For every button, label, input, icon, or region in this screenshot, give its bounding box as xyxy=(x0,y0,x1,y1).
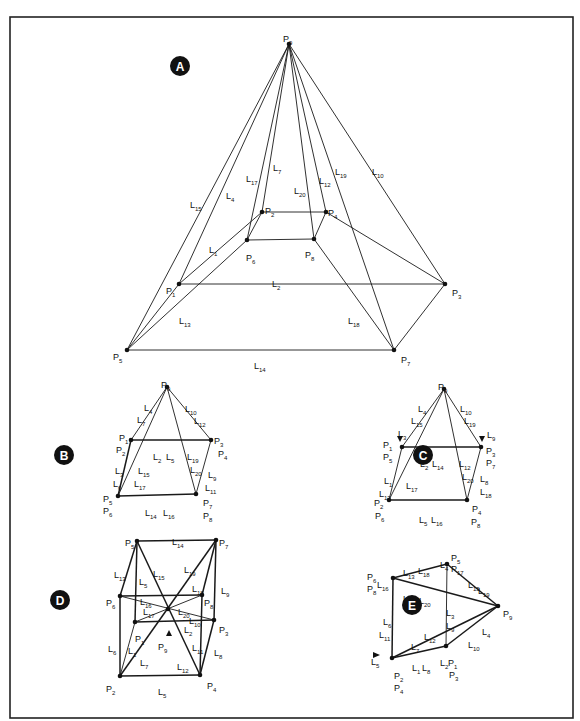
edge-P56-P78 xyxy=(118,494,196,496)
line-label-L9: L9 xyxy=(446,621,455,633)
line-label-L19: L19 xyxy=(187,452,199,464)
point-label-P3: P3 xyxy=(452,288,462,300)
point-label-P9: P9 xyxy=(503,609,513,621)
line-label-L4: L4 xyxy=(418,404,427,416)
panel-badge-E: E xyxy=(402,595,422,615)
line-label-L7: L7 xyxy=(273,163,282,175)
point-label-P6: P6 xyxy=(103,506,113,518)
line-label-L13: L13 xyxy=(179,316,191,328)
vertex-P24 xyxy=(390,656,395,661)
line-label-L4: L4 xyxy=(226,191,235,203)
vertex-P15 xyxy=(400,445,405,450)
point-label-P6: P6 xyxy=(367,572,377,584)
point-label-P5: P5 xyxy=(113,352,123,364)
point-label-P9: P9 xyxy=(158,642,168,654)
vertex-P13 xyxy=(444,644,449,649)
edge-P8-P4 xyxy=(200,595,202,675)
line-label-L18: L18 xyxy=(480,487,492,499)
edge-P2-P4 xyxy=(120,675,200,676)
line-label-L10: L10 xyxy=(460,404,472,416)
line-label-L2: L2 xyxy=(184,625,193,637)
point-label-P8: P8 xyxy=(203,511,213,523)
line-label-L16: L16 xyxy=(431,515,443,527)
pointer-arrow-icon xyxy=(479,436,485,442)
point-label-P3: P3 xyxy=(449,670,459,682)
line-label-L9: L9 xyxy=(208,470,217,482)
panel-badge-A: A xyxy=(170,56,190,76)
point-label-P1: P1 xyxy=(448,658,458,670)
line-label-L16: L16 xyxy=(163,508,175,520)
line-label-L19: L19 xyxy=(464,416,476,428)
line-label-L4: L4 xyxy=(440,560,449,572)
pointer-arrow-icon xyxy=(166,630,172,636)
point-label-P9: P9 xyxy=(283,34,293,46)
point-label-P2: P2 xyxy=(394,671,404,683)
pointer-arrow-icon xyxy=(373,652,380,658)
point-label-P4: P4 xyxy=(472,504,482,516)
edge-P3-P7 xyxy=(394,284,445,350)
point-label-P1: P1 xyxy=(135,634,145,646)
panel-E: P5P17P6P8P9P1P3P2P4L4L13L18L16L15L19L17L… xyxy=(367,553,513,695)
edge-P3-P4 xyxy=(200,620,214,675)
point-label-P5: P5 xyxy=(383,452,393,464)
line-label-L3: L3 xyxy=(446,608,455,620)
point-label-P3: P3 xyxy=(219,625,229,637)
point-label-P4: P4 xyxy=(394,683,404,695)
line-label-L18: L18 xyxy=(418,566,430,578)
line-label-L17: L17 xyxy=(246,174,258,186)
vertex-P9 xyxy=(496,604,501,609)
vertex-P6 xyxy=(118,594,123,599)
vertex-P8 xyxy=(312,237,317,242)
edge-P9-P26 xyxy=(389,389,444,500)
line-label-L20: L20 xyxy=(462,472,474,484)
point-label-P5: P5 xyxy=(103,494,113,506)
line-label-L12: L12 xyxy=(194,416,206,428)
line-label-L9: L9 xyxy=(487,430,496,442)
edge-P5-P6 xyxy=(120,541,137,596)
line-label-L17: L17 xyxy=(406,481,418,493)
line-label-L17: L17 xyxy=(143,607,155,619)
line-label-L7: L7 xyxy=(137,415,146,427)
line-label-L11: L11 xyxy=(192,643,204,655)
line-label-L4: L4 xyxy=(144,403,153,415)
line-label-L1: L1 xyxy=(128,646,137,658)
point-label-P7: P7 xyxy=(401,355,411,367)
diagram-canvas: P9P2P4P6P8P1P3P5P7L15L4L17L7L20L12L19L10… xyxy=(0,0,580,721)
line-label-L5: L5 xyxy=(419,515,428,527)
edge-P6-P8 xyxy=(120,595,202,596)
edge-P4-P3 xyxy=(326,212,445,284)
vertex-P7 xyxy=(392,348,397,353)
point-label-P2: P2 xyxy=(265,206,275,218)
line-label-L6: L6 xyxy=(383,617,392,629)
point-label-P1: P1 xyxy=(119,433,129,445)
line-label-L7: L7 xyxy=(411,642,420,654)
line-label-L5: L5 xyxy=(166,452,175,464)
line-label-L2: L2 xyxy=(272,279,281,291)
line-label-L11: L11 xyxy=(205,483,217,495)
line-label-L14: L14 xyxy=(254,361,266,373)
vertex-P6 xyxy=(245,238,250,243)
vertex-P34 xyxy=(209,438,214,443)
point-label-P5: P5 xyxy=(451,553,461,565)
vertex-P4 xyxy=(198,673,203,678)
panel-C-arrows xyxy=(397,436,485,442)
edge-P9-P15 xyxy=(402,389,444,447)
panel-badge-D: D xyxy=(50,590,70,610)
point-label-P8: P8 xyxy=(471,517,481,529)
edge-P6-P8 xyxy=(247,239,314,240)
point-label-P6: P6 xyxy=(246,253,256,265)
panel-D-arrows xyxy=(166,630,172,636)
panel-badge-label: B xyxy=(60,449,69,463)
edge-P4-P8 xyxy=(314,212,326,239)
panel-D: P5P7P6P8P3P1P9P2P4L14L13L5L15L19L18L9L16… xyxy=(50,537,230,699)
line-label-L3: L3 xyxy=(115,466,124,478)
vertex-P37 xyxy=(479,445,484,450)
line-label-L10: L10 xyxy=(189,616,201,628)
edge-P8-P7 xyxy=(314,239,394,350)
line-label-L15: L15 xyxy=(138,466,150,478)
line-label-L13: L13 xyxy=(114,570,126,582)
line-label-L19: L19 xyxy=(478,586,490,598)
line-label-L6: L6 xyxy=(113,479,122,491)
vertex-P3 xyxy=(443,282,448,287)
edge-P5-P1 xyxy=(135,541,137,622)
